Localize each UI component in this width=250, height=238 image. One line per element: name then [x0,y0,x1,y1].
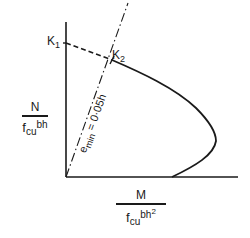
k1-label: K1 [47,35,60,50]
y-axis-numerator: N [12,100,58,115]
x-den-sub: cu [130,216,141,227]
x-axis-denominator: fcubh2 [112,205,170,227]
y-den-tail: bh [37,119,48,130]
k2-label: K2 [112,49,125,64]
emin-dashdot-line [66,3,128,177]
y-den-sub: cu [26,126,37,137]
x-den-sup: 2 [151,207,155,216]
x-axis-label: M fcubh2 [112,188,170,227]
x-den-tail: bh [140,209,151,220]
y-axis-label: N fcubh [12,100,58,137]
k2-main: K [112,48,120,62]
y-axis-denominator: fcubh [12,117,58,137]
x-den-tail-wrap: bh2 [140,209,156,220]
x-axis-numerator: M [112,188,170,203]
k1-sub: 1 [55,40,60,50]
k2-sub: 2 [120,54,125,64]
k1-main: K [47,34,55,48]
interaction-curve [112,60,216,177]
k1-k2-dashed-line [66,43,112,60]
